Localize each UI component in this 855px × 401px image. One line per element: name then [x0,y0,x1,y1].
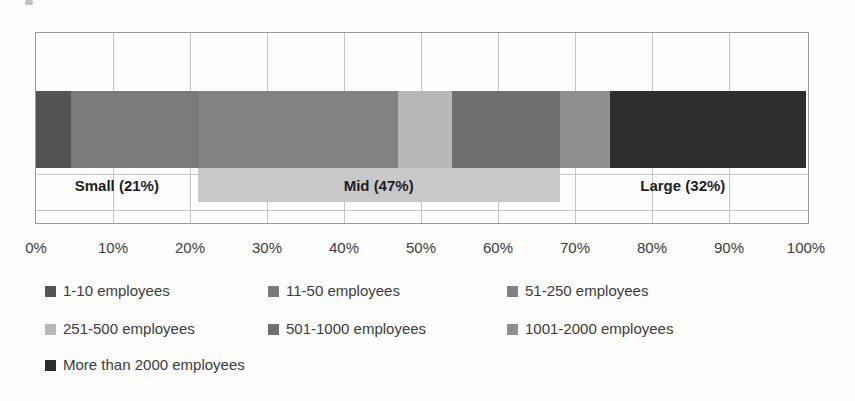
legend-item-1-10-employees: 1-10 employees [45,281,170,301]
bar-segment-1-10-employees [36,91,71,168]
x-axis-tick-labels: 0%10%20%30%40%50%60%70%80%90%100% [0,239,855,259]
legend-item-11-50-employees: 11-50 employees [268,281,400,301]
legend-label: More than 2000 employees [63,355,245,375]
plot-area: Small (21%)Mid (47%)Large (32%) [35,32,809,224]
legend-marker-11-50-employees [268,286,279,297]
bar-segment-51-250-employees [198,91,398,168]
legend-marker-more-than-2000-employees [45,360,56,371]
legend-item-51-250-employees: 51-250 employees [507,281,648,301]
legend-marker-251-500-employees [45,324,56,335]
x-axis-tick: 100% [787,239,825,257]
legend-item-more-than-2000-employees: More than 2000 employees [45,355,245,375]
group-label-small: Small (21%) [75,177,159,195]
x-axis-tick: 80% [637,239,667,257]
x-axis-tick: 40% [329,239,359,257]
bar-segment-501-1000-employees [452,91,560,168]
legend-item-251-500-employees: 251-500 employees [45,319,195,339]
legend-label: 501-1000 employees [286,319,426,339]
x-axis-tick: 20% [175,239,205,257]
bar-segment-11-50-employees [71,91,198,168]
legend-label: 51-250 employees [525,281,648,301]
x-axis-tick: 10% [98,239,128,257]
gridline-horizontal [36,210,808,211]
x-axis-tick: 90% [714,239,744,257]
bar-segment-more-than-2000-employees [610,91,806,168]
bar-segment-1001-2000-employees [560,91,610,168]
legend-marker-1-10-employees [45,286,56,297]
x-axis-tick: 70% [560,239,590,257]
legend-marker-1001-2000-employees [507,324,518,335]
legend-item-501-1000-employees: 501-1000 employees [268,319,426,339]
legend-marker-51-250-employees [507,286,518,297]
scan-artifact-mark [25,0,33,5]
legend: 1-10 employees11-50 employees51-250 empl… [0,270,855,390]
group-label-large: Large (32%) [640,177,725,195]
x-axis-tick: 50% [406,239,436,257]
x-axis-tick: 30% [252,239,282,257]
bar-segment-251-500-employees [398,91,452,168]
group-label-mid: Mid (47%) [344,177,414,195]
legend-marker-501-1000-employees [268,324,279,335]
legend-label: 1-10 employees [63,281,170,301]
legend-item-1001-2000-employees: 1001-2000 employees [507,319,673,339]
legend-label: 1001-2000 employees [525,319,673,339]
x-axis-tick: 0% [25,239,47,257]
legend-label: 251-500 employees [63,319,195,339]
legend-label: 11-50 employees [286,281,400,301]
x-axis-tick: 60% [483,239,513,257]
